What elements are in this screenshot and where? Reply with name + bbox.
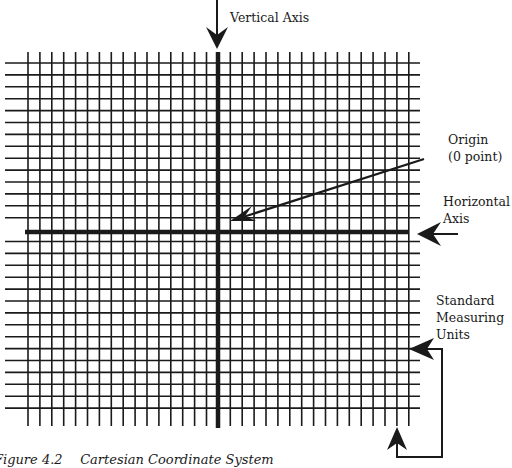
cartesian-coordinate-diagram <box>0 0 512 468</box>
grid-lines <box>5 52 420 426</box>
origin-arrow-icon <box>230 159 424 221</box>
measuring-units-label-line1: Standard <box>436 292 504 309</box>
origin-label-line1: Origin <box>448 131 502 148</box>
vertical-axis-arrow-icon <box>206 0 228 49</box>
figure-caption: Figure 4.2 Cartesian Coordinate System <box>0 452 274 467</box>
vertical-axis-label: Vertical Axis <box>230 9 309 26</box>
figure-number: Figure 4.2 <box>0 452 76 467</box>
measuring-units-label: Standard Measuring Units <box>436 292 504 343</box>
origin-label: Origin (0 point) <box>448 131 502 165</box>
origin-label-line2: (0 point) <box>448 148 502 165</box>
figure-title: Cartesian Coordinate System <box>80 452 274 467</box>
measuring-units-label-line2: Measuring <box>436 309 504 326</box>
horizontal-axis-label-line1: Horizontal <box>443 193 510 210</box>
measuring-units-bracket-icon <box>387 338 442 457</box>
horizontal-axis-label-line2: Axis <box>443 210 510 227</box>
horizontal-axis-label: Horizontal Axis <box>443 193 510 227</box>
measuring-units-label-line3: Units <box>436 326 504 343</box>
